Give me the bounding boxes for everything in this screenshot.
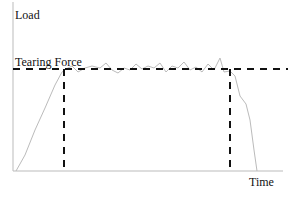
load-curve: [16, 58, 257, 171]
y-axis-label: Load: [15, 9, 40, 21]
x-axis-label: Time: [249, 176, 274, 188]
tearing-force-label: Tearing Force: [15, 56, 82, 68]
tearing-force-diagram: [0, 0, 290, 198]
